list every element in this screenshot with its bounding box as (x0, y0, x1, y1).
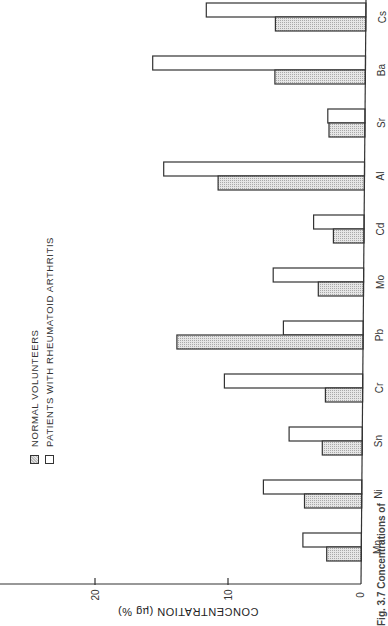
tick-label-20: 20 (90, 583, 102, 607)
axis-title: CONCENTRATION (µg %) (68, 605, 308, 619)
chart-plot-area (0, 0, 388, 626)
bar-series-group (153, 3, 366, 561)
bar-patient-sr (328, 109, 365, 123)
bar-normal-pb (177, 335, 363, 349)
category-label-sr: Sr (376, 108, 388, 138)
bar-patient-cs (206, 3, 366, 17)
tick-label-10: 10 (223, 583, 235, 607)
figure-caption: Fig. 3.7 Concentrations of (376, 503, 387, 626)
bar-normal-cs (275, 17, 365, 31)
bar-patient-ba (153, 56, 366, 70)
bar-patient-cd (314, 215, 365, 229)
bar-normal-al (218, 176, 364, 190)
category-label-cd: Cd (375, 214, 387, 244)
bar-patient-ni (263, 480, 361, 494)
tick-label-0: 0 (355, 583, 367, 607)
bar-normal-ba (275, 70, 365, 84)
legend-label-patient: PATIENTS WITH RHEUMATOID ARTHRITIS (44, 237, 55, 447)
bar-normal-mo (318, 282, 363, 296)
legend-label-normal: NORMAL VOLUNTEERS (29, 329, 40, 447)
bar-patient-cr (224, 374, 362, 388)
bar-normal-sn (322, 441, 362, 455)
bar-normal-mn (327, 547, 362, 561)
category-label-pb: Pb (374, 320, 386, 350)
bar-patient-sn (289, 427, 362, 441)
bar-patient-al (164, 162, 365, 176)
bar-normal-cd (333, 229, 364, 243)
category-label-cr: Cr (374, 373, 386, 403)
category-label-mo: Mo (375, 267, 387, 297)
category-label-al: Al (375, 161, 387, 191)
bar-chart: MnNiSnCrPbMoCdAlSrBaCs 20 10 0 CONCENTRA… (0, 0, 388, 626)
bar-patient-mn (303, 533, 362, 547)
bar-patient-pb (283, 321, 363, 335)
category-label-sn: Sn (373, 426, 385, 456)
category-label-cs: Cs (377, 2, 388, 32)
bar-normal-ni (305, 494, 362, 508)
legend-swatch-patient (45, 455, 54, 464)
bar-normal-cr (325, 388, 362, 402)
bar-normal-sr (329, 123, 365, 137)
bar-patient-mo (273, 268, 363, 282)
category-label-ba: Ba (376, 55, 388, 85)
legend-swatch-normal (30, 455, 39, 464)
